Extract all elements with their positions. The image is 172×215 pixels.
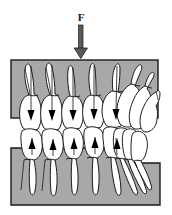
force-label: F — [78, 11, 85, 23]
force-arrow-icon — [74, 25, 87, 59]
occlusal-load-figure: F — [0, 0, 172, 215]
diagram-canvas: F — [0, 0, 172, 215]
force-annotation: F — [74, 11, 87, 59]
